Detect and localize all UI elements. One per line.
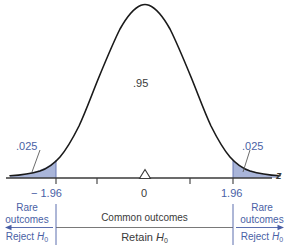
mean-triangle-marker bbox=[140, 170, 151, 179]
left-tail-leader-line bbox=[32, 150, 40, 172]
center-probability-label: .95 bbox=[133, 78, 148, 89]
tick-label-zero: 0 bbox=[141, 188, 147, 199]
left-decision-label: RejectH0 bbox=[0, 232, 54, 242]
right-band-arrowhead bbox=[278, 225, 285, 230]
left-rare-label-line1: Rare bbox=[0, 203, 54, 213]
center-decision-label: RetainH0 bbox=[56, 232, 233, 243]
right-rare-label-line1: Rare bbox=[235, 203, 289, 213]
center-decision-hypothesis-symbol: H bbox=[156, 231, 164, 243]
normal-curve bbox=[10, 5, 280, 176]
left-decision-hypothesis-subscript: 0 bbox=[44, 236, 48, 243]
left-rare-label-line2: outcomes bbox=[0, 215, 54, 225]
center-decision-verb: Retain bbox=[121, 231, 153, 243]
left-decision-verb: Reject bbox=[6, 231, 34, 242]
x-axis-variable-label: z bbox=[276, 170, 282, 181]
right-decision-hypothesis-subscript: 0 bbox=[279, 236, 283, 243]
common-outcomes-label: Common outcomes bbox=[56, 213, 233, 223]
right-tail-leader-line bbox=[243, 150, 250, 172]
tick-label-positive-critical: 1.96 bbox=[221, 188, 242, 199]
left-band-arrowhead bbox=[5, 225, 12, 230]
right-decision-verb: Reject bbox=[241, 231, 269, 242]
right-decision-label: RejectH0 bbox=[235, 232, 289, 242]
right-tail-probability-label: .025 bbox=[242, 141, 263, 152]
left-tail-probability-label: .025 bbox=[16, 141, 37, 152]
center-decision-hypothesis-subscript: 0 bbox=[164, 237, 168, 244]
tick-label-negative-critical: − 1.96 bbox=[31, 188, 62, 199]
right-rare-label-line2: outcomes bbox=[235, 215, 289, 225]
normal-distribution-figure: .025 .95 .025 − 1.96 0 1.96 z Rare outco… bbox=[0, 0, 289, 249]
